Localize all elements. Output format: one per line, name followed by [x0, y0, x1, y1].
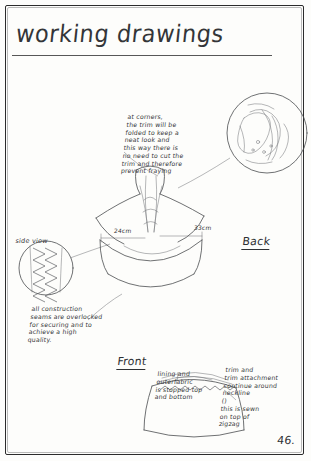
label-back-text: Back — [241, 235, 271, 250]
annotation-trim-neckline-note: trim and trim attachment continue around… — [218, 366, 288, 428]
title-underline — [12, 55, 272, 56]
annotation-corners-note: at corners, the trim will be folded to k… — [120, 113, 190, 175]
dimension-33cm: 33cm — [194, 225, 212, 232]
page-number: 46. — [276, 435, 295, 447]
label-front-text: Front — [116, 355, 147, 370]
label-side-view: side view — [15, 237, 48, 245]
label-back: Back — [241, 236, 270, 248]
label-front: Front — [116, 356, 147, 368]
annotation-lining-note: lining and outerfabric is stopped top an… — [154, 370, 214, 401]
notebook-page: working drawings — [0, 0, 311, 461]
dimension-24cm: 24cm — [114, 228, 132, 235]
page-title: working drawings — [15, 21, 226, 48]
annotation-overlocked-seams-note: all construction seams are overlocked fo… — [27, 305, 110, 344]
